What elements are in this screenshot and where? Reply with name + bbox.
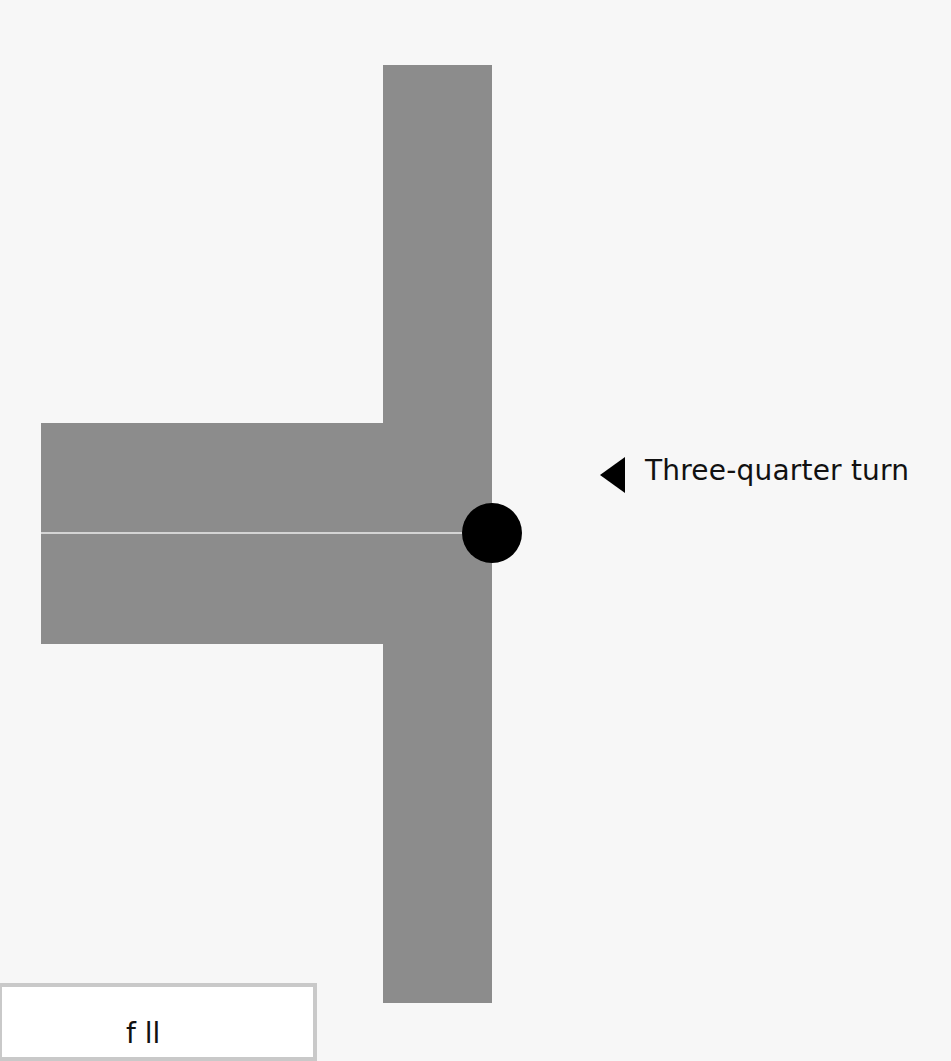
bottom-caption-box: f ll xyxy=(0,983,317,1061)
annotation-label: Three-quarter turn xyxy=(645,454,909,487)
divider-line xyxy=(41,532,465,534)
caption-text: f ll xyxy=(126,1017,160,1050)
pivot-circle xyxy=(462,503,522,563)
left-arrow-icon xyxy=(600,457,625,493)
